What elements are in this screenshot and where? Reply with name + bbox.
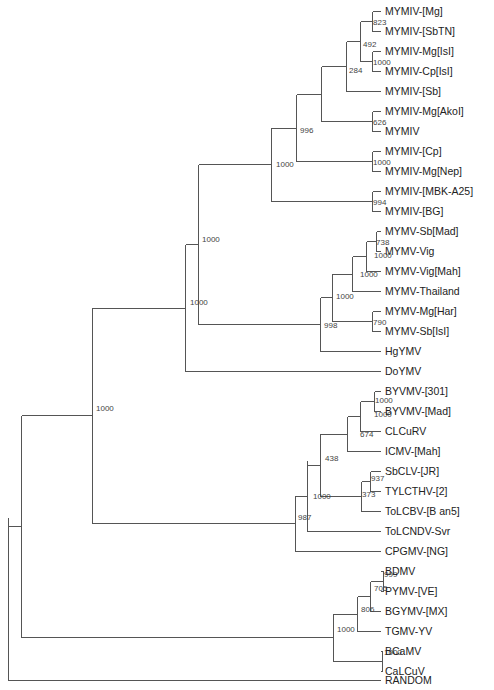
leaf-label: MYMIV-Cp[IsI] [385, 65, 453, 77]
leaf-label: MYMV-Thailand [385, 285, 460, 297]
bootstrap-value: 1000 [313, 492, 331, 501]
leaf-label: BCaMV [385, 645, 421, 657]
leaf-label: PYMV-[VE] [385, 585, 438, 597]
leaf-label: TYLCTHV-[2] [385, 485, 448, 497]
leaf-label: RANDOM [385, 674, 432, 686]
leaf-label: MYMIV-[BG] [385, 205, 443, 217]
bootstrap-value: 996 [300, 126, 314, 135]
leaf-label: MYMV-Vig [385, 245, 435, 257]
bootstrap-value: 1000 [375, 396, 393, 405]
bootstrap-value: 438 [325, 454, 339, 463]
bootstrap-values: 8231000492284626100099699410007381000100… [96, 18, 402, 657]
leaf-label: SbCLV-[JR] [385, 465, 439, 477]
leaf-label: MYMIV-Mg[IsI] [385, 45, 454, 57]
leaf-label: HgYMV [385, 345, 421, 357]
leaf-label: MYMV-Sb[Mad] [385, 225, 459, 237]
leaf-label: ToLCBV-[B an5] [385, 505, 460, 517]
bootstrap-value: 492 [363, 40, 377, 49]
leaf-label: BDMV [385, 565, 415, 577]
tree-branches [9, 12, 384, 681]
leaf-label: MYMIV-[Mg] [385, 5, 443, 17]
bootstrap-value: 1000 [276, 160, 294, 169]
phylogenetic-tree: 8231000492284626100099699410007381000100… [0, 0, 494, 690]
leaf-label: BGYMV-[MX] [385, 605, 448, 617]
leaf-label: TGMV-YV [385, 625, 432, 637]
bootstrap-value: 674 [360, 430, 374, 439]
leaf-label: BYVMV-[Mad] [385, 405, 451, 417]
leaf-label: ICMV-[Mah] [385, 445, 441, 457]
leaf-label: MYMIV [385, 125, 419, 137]
leaf-label: MYMIV-[SbTN] [385, 25, 455, 37]
leaf-label: CLCuRV [385, 425, 426, 437]
bootstrap-value: 373 [362, 490, 376, 499]
bootstrap-value: 1000 [96, 404, 114, 413]
bootstrap-value: 284 [349, 66, 363, 75]
bootstrap-value: 937 [371, 474, 385, 483]
bootstrap-value: 1000 [202, 235, 220, 244]
bootstrap-value: 1000 [360, 270, 378, 279]
leaf-labels: MYMIV-[Mg]MYMIV-[SbTN]MYMIV-Mg[IsI]MYMIV… [385, 5, 473, 686]
leaf-label: MYMIV-Mg[AkoI] [385, 105, 464, 117]
bootstrap-value: 1000 [190, 298, 208, 307]
bootstrap-value: 987 [298, 513, 312, 522]
bootstrap-value: 806 [361, 605, 375, 614]
leaf-label: DoYMV [385, 365, 421, 377]
leaf-label: MYMIV-[Sb] [385, 85, 441, 97]
leaf-label: BYVMV-[301] [385, 385, 448, 397]
leaf-label: ToLCNDV-Svr [385, 525, 451, 537]
leaf-label: MYMIV-[Cp] [385, 145, 442, 157]
leaf-label: CPGMV-[NG] [385, 545, 448, 557]
leaf-label: MYMIV-[MBK-A25] [385, 185, 473, 197]
leaf-label: MYMV-Vig[Mah] [385, 265, 461, 277]
leaf-label: MYMIV-Mg[Nep] [385, 165, 462, 177]
bootstrap-value: 1000 [337, 625, 355, 634]
leaf-label: MYMV-Sb[IsI] [385, 325, 449, 337]
leaf-label: MYMV-Mg[Har] [385, 305, 457, 317]
bootstrap-value: 998 [324, 321, 338, 330]
bootstrap-value: 1000 [336, 292, 354, 301]
